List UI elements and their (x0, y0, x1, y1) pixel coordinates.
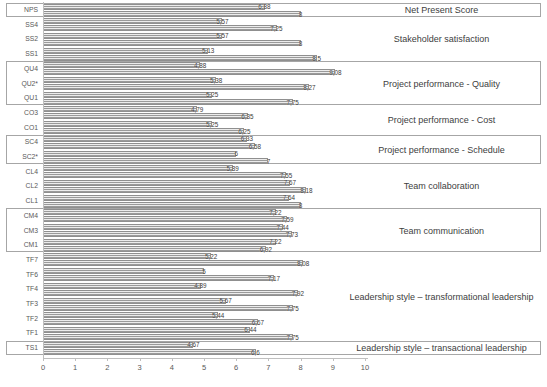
category-label: SS4 (4, 20, 38, 30)
bar-upper (43, 62, 200, 68)
data-label-lower: 6,25 (238, 128, 250, 135)
data-label-lower: 8,18 (300, 187, 312, 194)
data-label-lower: 8 (299, 202, 303, 209)
x-tick-mark (172, 358, 173, 361)
bar-lower (43, 40, 301, 46)
bar-upper (43, 48, 208, 54)
bar-upper (43, 92, 212, 98)
data-label-lower: 6,67 (252, 319, 264, 326)
data-label-upper: 7,44 (276, 224, 288, 231)
x-tick-mark (268, 358, 269, 361)
bar-upper (43, 209, 276, 215)
category-label: CM3 (4, 226, 38, 236)
data-label-upper: 5,57 (216, 18, 228, 25)
bar-upper (43, 195, 289, 201)
bar-upper (43, 136, 247, 142)
x-tick-mark (236, 358, 237, 361)
category-label: CL2 (4, 181, 38, 191)
group-label: Leadership style – transformational lead… (340, 291, 543, 303)
bar-lower (43, 172, 286, 178)
bar-lower (43, 216, 287, 222)
data-label-upper: 5,13 (202, 47, 214, 54)
bar-lower (43, 246, 266, 252)
bar-lower (43, 158, 268, 164)
category-label: NPS (4, 5, 38, 15)
category-label: CO1 (4, 123, 38, 133)
data-label-upper: 4,79 (191, 106, 203, 113)
x-tick-label: 6 (225, 363, 247, 372)
group-label: Project performance - Cost (340, 114, 543, 126)
data-label-upper: 5,89 (227, 165, 239, 172)
x-tick-mark (301, 358, 302, 361)
bar-lower (43, 319, 258, 325)
x-tick-label: 4 (161, 363, 183, 372)
y-axis-line (43, 2, 44, 358)
category-label: SC2* (4, 152, 38, 162)
category-label: SS2 (4, 34, 38, 44)
group-label: Team communication (340, 225, 543, 237)
data-label-upper: 5,25 (206, 121, 218, 128)
bar-lower (43, 187, 306, 193)
bar-upper (43, 253, 211, 259)
data-label-upper: 4,88 (194, 62, 206, 69)
data-label-upper: 7,67 (284, 179, 296, 186)
data-label-upper: 5,25 (206, 91, 218, 98)
bar-lower (43, 99, 293, 105)
group-label: Net Present Score (340, 4, 543, 16)
category-label: CL4 (4, 167, 38, 177)
bar-lower (43, 143, 255, 149)
data-label-upper: 5 (202, 268, 206, 275)
bar-upper (43, 4, 265, 10)
x-tick-mark (204, 358, 205, 361)
data-label-upper: 5,44 (212, 312, 224, 319)
data-label-lower: 6,6 (251, 349, 260, 356)
bar-lower (43, 275, 274, 281)
data-label-lower: 7,75 (286, 99, 298, 106)
data-label-lower: 8 (299, 11, 303, 18)
bar-upper (43, 77, 216, 83)
data-label-upper: 6,44 (244, 326, 256, 333)
bar-lower (43, 334, 293, 340)
grouped-horizontal-bar-chart: NPSSS4SS2SS1QU4QU2*QU1CO3CO1SC4SC2*CL4CL… (0, 0, 547, 387)
category-label: QU2* (4, 79, 38, 89)
x-tick-mark (43, 358, 44, 361)
data-label-lower: 8,08 (297, 260, 309, 267)
x-axis-line (43, 358, 368, 359)
data-label-lower: 7,73 (286, 231, 298, 238)
x-tick-label: 0 (32, 363, 54, 372)
x-tick-mark (333, 358, 334, 361)
category-label: TF7 (4, 255, 38, 265)
data-label-lower: 7,17 (268, 275, 280, 282)
data-label-upper: 7,64 (283, 194, 295, 201)
category-label: TF3 (4, 299, 38, 309)
bar-lower (43, 11, 301, 17)
bar-upper (43, 312, 218, 318)
x-tick-label: 2 (96, 363, 118, 372)
data-label-upper: 7,22 (269, 209, 281, 216)
data-label-upper: 4,89 (194, 282, 206, 289)
bar-lower (43, 113, 248, 119)
category-label: TF4 (4, 284, 38, 294)
bar-lower (43, 55, 317, 61)
bar-lower (43, 290, 298, 296)
category-label: QU4 (4, 64, 38, 74)
bar-lower (43, 25, 277, 31)
data-label-lower: 7,25 (270, 25, 282, 32)
x-tick-mark (75, 358, 76, 361)
bar-lower (43, 260, 303, 266)
data-label-upper: 4,67 (187, 341, 199, 348)
bar-upper (43, 298, 226, 304)
x-tick-label: 10 (354, 363, 376, 372)
bar-upper (43, 239, 276, 245)
bar-lower (43, 128, 244, 134)
data-label-upper: 5,57 (216, 32, 228, 39)
data-label-lower: 7,75 (286, 334, 298, 341)
bar-upper (43, 33, 222, 39)
data-label-upper: 6,33 (241, 135, 253, 142)
group-label: Project performance - Schedule (340, 144, 543, 156)
data-label-lower: 7,55 (280, 172, 292, 179)
bar-upper (43, 106, 197, 112)
group-label: Team collaboration (340, 180, 543, 192)
data-label-upper: 7,22 (269, 238, 281, 245)
group-label: Stakeholder satisfaction (340, 33, 543, 45)
